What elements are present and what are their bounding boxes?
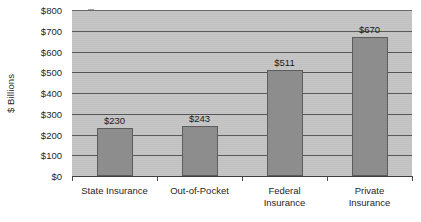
x-axis-tick-mark <box>72 176 73 181</box>
bar-value-label: $511 <box>274 57 294 68</box>
y-axis-tick-label: $100 <box>41 150 62 161</box>
x-axis-tick-mark <box>412 176 413 181</box>
bar-value-label: $670 <box>359 24 380 35</box>
bar-chart: $ Billions $0$100$200$300$400$500$600$70… <box>0 0 421 222</box>
x-axis-category-label: State Insurance <box>81 185 148 197</box>
x-axis-tick-mark <box>327 176 328 181</box>
y-axis-title: $ Billions <box>0 0 22 186</box>
bar <box>97 128 133 176</box>
x-axis-category-label: FederalInsurance <box>264 185 306 209</box>
bar <box>182 126 218 176</box>
x-axis-tick-mark <box>157 176 158 181</box>
y-axis-tick-label: $800 <box>41 5 62 16</box>
y-axis-tick-label: $500 <box>41 67 62 78</box>
bar <box>267 70 303 176</box>
y-axis-tick-label: $0 <box>51 171 62 182</box>
y-axis-tick-label: $700 <box>41 25 62 36</box>
y-axis-tick-label: $300 <box>41 108 62 119</box>
y-axis-title-text: $ Billions <box>6 73 17 112</box>
y-axis-tick-labels: $0$100$200$300$400$500$600$700$800 <box>22 10 66 176</box>
x-axis-category-label: PrivateInsurance <box>349 185 391 209</box>
y-axis-tick-label: $200 <box>41 129 62 140</box>
bar-value-label: $230 <box>104 115 125 126</box>
x-axis-category-label: Out-of-Pocket <box>170 185 229 197</box>
x-axis-category-labels: State InsuranceOut-of-PocketFederalInsur… <box>72 185 412 222</box>
y-axis-tick-label: $600 <box>41 46 62 57</box>
x-axis-tick-mark <box>242 176 243 181</box>
bar-value-label: $243 <box>189 113 210 124</box>
y-axis-tick-label: $400 <box>41 88 62 99</box>
bar <box>352 37 388 176</box>
